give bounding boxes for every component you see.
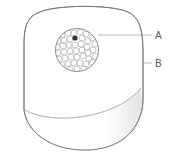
label-a: A (155, 30, 162, 41)
callout-b: B (143, 58, 162, 69)
motion-sensor-diagram: A B (0, 0, 172, 165)
label-b: B (155, 58, 162, 69)
device-body (24, 6, 143, 150)
indicator-dot (72, 35, 77, 40)
